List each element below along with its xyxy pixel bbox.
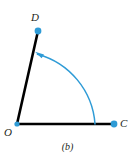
angle-diagram-svg xyxy=(0,0,135,161)
figure-caption: (b) xyxy=(0,141,135,152)
point-d-label: D xyxy=(31,12,39,23)
point-c-marker xyxy=(111,121,118,128)
ray-od-line xyxy=(17,31,38,124)
point-o-marker xyxy=(14,121,19,126)
point-o-label: O xyxy=(4,127,12,138)
point-d-marker xyxy=(35,28,42,35)
geometry-figure: D O C (b) xyxy=(0,0,135,161)
point-c-label: C xyxy=(120,118,127,129)
rotation-arc xyxy=(37,54,95,124)
arc-arrowhead-icon xyxy=(35,52,44,58)
